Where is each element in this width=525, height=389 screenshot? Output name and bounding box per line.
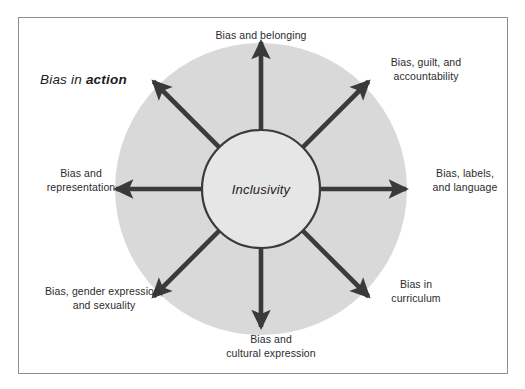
spoke-label-west: Bias and representation [28,167,134,194]
center-node-label: Inclusivity [196,182,326,197]
spoke-label-southeast: Bias in curriculum [358,278,474,305]
diagram-title-prefix: Bias in [40,72,86,87]
spoke-label-east: Bias, labels, and language [409,167,521,194]
diagram-page: Bias in action Inclusivity Bias and belo… [0,0,525,389]
spoke-label-southwest: Bias, gender expression, and sexuality [14,285,194,312]
spoke-label-south: Bias and cultural expression [196,333,346,360]
diagram-title-emphasis: action [86,72,127,87]
spoke-label-north: Bias and belonging [186,29,336,43]
spoke-label-northeast: Bias, guilt, and accountability [356,56,496,83]
diagram-title: Bias in action [40,72,127,87]
